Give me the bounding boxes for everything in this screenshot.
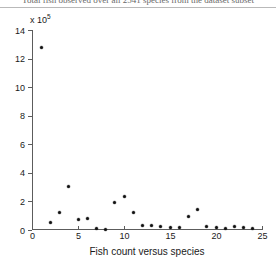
y-axis-tick: 10 — [28, 87, 32, 88]
y-axis-tick: 4 — [28, 173, 32, 174]
y-axis-tick: 14 — [28, 30, 32, 31]
y-axis-tick-label: 6 — [20, 140, 25, 150]
x-axis-tick: 5 — [78, 226, 79, 230]
data-point — [58, 211, 61, 214]
data-point — [187, 215, 190, 218]
x-axis-tick-label: 0 — [30, 231, 35, 241]
y-axis-tick-label: 0 — [20, 226, 25, 236]
y-axis-line — [32, 30, 33, 230]
data-point — [132, 211, 135, 214]
data-point — [233, 225, 236, 228]
plot-area: 024681012140510152025 — [32, 30, 262, 230]
data-point — [67, 185, 70, 188]
x-axis-tick-label: 20 — [211, 231, 221, 241]
y-axis-exponent-label: x 105 — [30, 13, 51, 25]
screenshot-root: Total fish observed over all 2541 specie… — [0, 0, 276, 262]
data-point — [141, 224, 144, 227]
data-point — [86, 217, 89, 220]
data-point — [123, 195, 126, 198]
x-axis-tick-label: 10 — [119, 231, 129, 241]
x-axis-tick-label: 5 — [76, 231, 81, 241]
y-axis-tick-label: 2 — [20, 197, 25, 207]
y-axis-tick: 6 — [28, 144, 32, 145]
data-point — [113, 201, 116, 204]
x-axis-tick-label: 25 — [257, 231, 267, 241]
x-axis-tick: 0 — [32, 226, 33, 230]
x-axis-label: Fish count versus species — [32, 246, 262, 257]
scatter-figure: x 105 024681012140510152025 Fish count v… — [0, 8, 276, 262]
y-axis-multiplier-text: x 10 — [30, 15, 47, 25]
x-axis-line — [32, 229, 262, 230]
data-point — [150, 224, 153, 227]
data-point — [40, 46, 43, 49]
data-point — [77, 218, 80, 221]
data-point — [159, 225, 162, 228]
data-point — [95, 227, 98, 230]
y-axis-tick-label: 12 — [15, 54, 25, 64]
data-point — [49, 221, 52, 224]
x-axis-tick: 10 — [124, 226, 125, 230]
data-point — [196, 208, 199, 211]
y-axis-tick: 12 — [28, 59, 32, 60]
y-axis-exponent-value: 5 — [47, 13, 51, 20]
document-header-text: Total fish observed over all 2541 specie… — [0, 0, 276, 6]
data-point — [178, 226, 181, 229]
y-axis-tick: 2 — [28, 201, 32, 202]
data-point — [169, 226, 172, 229]
data-point — [205, 225, 208, 228]
y-axis-tick-label: 8 — [20, 111, 25, 121]
data-point — [215, 226, 218, 229]
y-axis-tick-label: 14 — [15, 26, 25, 36]
x-axis-tick: 25 — [262, 226, 263, 230]
x-axis-tick-label: 15 — [165, 231, 175, 241]
y-axis-tick: 8 — [28, 116, 32, 117]
data-point — [224, 227, 227, 230]
y-axis-tick-label: 4 — [20, 168, 25, 178]
y-axis-tick-label: 10 — [15, 83, 25, 93]
data-point — [104, 228, 107, 231]
